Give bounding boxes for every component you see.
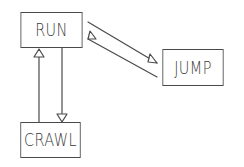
arrowhead-icon <box>57 114 67 122</box>
edge-jump-to-run <box>88 31 157 77</box>
node-run-label: RUN <box>35 20 68 40</box>
edge-crawl-to-run <box>34 49 44 122</box>
node-jump-label: JUMP <box>174 58 212 78</box>
arrowhead-icon <box>34 49 44 57</box>
node-crawl[interactable]: CRAWL <box>20 122 80 158</box>
edge-run-to-crawl <box>57 48 67 122</box>
arrowhead-icon <box>148 54 157 63</box>
node-run[interactable]: RUN <box>20 12 82 48</box>
node-crawl-label: CRAWL <box>24 130 77 150</box>
node-jump[interactable]: JUMP <box>162 49 223 86</box>
arrowhead-icon <box>88 31 96 39</box>
edge-run-to-jump <box>88 22 157 63</box>
